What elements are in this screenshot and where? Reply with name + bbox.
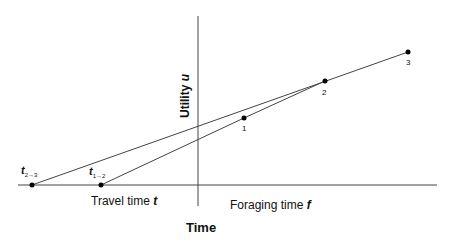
travel-time-label: Travel time t [91,194,157,208]
utility-label: Utility u [178,74,192,118]
point-t12 [99,183,104,188]
line-t12-to-1 [101,118,244,185]
point-2 [323,79,328,84]
foraging-diagram [0,0,449,243]
point-1 [242,116,247,121]
line-1-to-2 [244,81,325,118]
label-point-2: 2 [322,88,326,97]
label-point-1: 1 [242,124,246,133]
point-t23 [30,183,35,188]
foraging-time-label: Foraging time f [230,198,311,212]
label-point-3: 3 [406,58,410,67]
point-3 [406,50,411,55]
time-title: Time [186,220,216,235]
label-t23: t2→3 [21,164,37,178]
label-t12: t1→2 [89,165,105,179]
